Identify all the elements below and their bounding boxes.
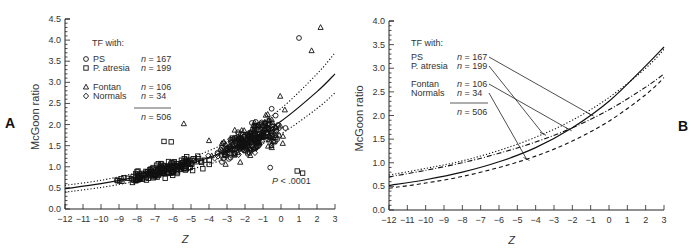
y-tick-label: 3.0 <box>48 77 61 87</box>
x-tick-label: 1 <box>625 215 630 225</box>
legend-label: Normals <box>411 88 445 98</box>
y-axis-title: McGoon ratio <box>29 84 41 150</box>
x-tick-label: −12 <box>381 215 396 225</box>
leader-line <box>489 93 527 159</box>
legend-count: n = 34 <box>141 91 166 101</box>
panel-a-axes: 0.00.51.01.52.02.53.03.54.04.5−12−11−10−… <box>29 14 338 245</box>
x-tick-label: −8 <box>132 214 142 224</box>
y-tick-label: 2.5 <box>372 87 385 97</box>
x-tick-label: −3 <box>222 214 232 224</box>
leader-line <box>489 66 543 134</box>
legend-label: P. atresia <box>411 61 448 71</box>
x-axis-title: Z <box>181 233 190 245</box>
x-tick-label: −1 <box>258 214 268 224</box>
y-tick-label: 4.0 <box>372 16 385 26</box>
x-tick-label: −3 <box>549 215 559 225</box>
y-tick-label: 3.5 <box>48 56 61 66</box>
panel-b-axes: 0.00.51.01.52.02.53.03.54.0−12−11−10−9−8… <box>353 16 667 246</box>
y-tick-label: 0.0 <box>372 205 385 215</box>
x-axis-title: Z <box>507 234 516 246</box>
x-tick-label: −11 <box>400 215 415 225</box>
x-tick-label: −2 <box>567 215 577 225</box>
x-tick-label: 3 <box>661 215 666 225</box>
legend-label: Normals <box>93 91 127 101</box>
x-tick-label: −1 <box>586 215 596 225</box>
x-tick-label: −6 <box>494 215 504 225</box>
x-tick-label: −8 <box>457 215 467 225</box>
legend-label: P. atresia <box>93 63 130 73</box>
x-tick-label: −6 <box>168 214 178 224</box>
y-tick-label: 4.0 <box>48 35 61 45</box>
y-axis-title: McGoon ratio <box>353 85 365 151</box>
figure: 0.00.51.01.52.02.53.03.54.04.5−12−11−10−… <box>0 0 696 251</box>
legend-total: n = 506 <box>141 112 171 122</box>
x-tick-label: −4 <box>204 214 214 224</box>
legend-title: TF with: <box>92 38 124 48</box>
x-tick-label: −10 <box>418 215 433 225</box>
panel-a-label: A <box>5 115 15 131</box>
x-tick-label: −7 <box>150 214 160 224</box>
x-tick-label: −9 <box>439 215 449 225</box>
y-tick-label: 0.0 <box>48 204 61 214</box>
x-tick-label: 2 <box>643 215 648 225</box>
y-tick-label: 1.5 <box>48 141 61 151</box>
legend-count: n = 199 <box>141 63 171 73</box>
x-tick-label: −5 <box>186 214 196 224</box>
legend-count: n = 199 <box>457 61 487 71</box>
legend-count: n = 34 <box>457 88 482 98</box>
legend-a: TF with:PSn = 167P. atresian = 199Fontan… <box>83 38 171 122</box>
y-tick-label: 4.5 <box>48 14 61 24</box>
x-tick-label: −2 <box>240 214 250 224</box>
x-tick-label: 2 <box>314 214 319 224</box>
x-tick-label: −10 <box>93 214 108 224</box>
y-tick-label: 1.0 <box>372 158 385 168</box>
x-tick-label: 0 <box>278 214 283 224</box>
y-tick-label: 2.5 <box>48 98 61 108</box>
x-tick-label: −7 <box>476 215 486 225</box>
y-tick-label: 1.5 <box>372 134 385 144</box>
panel-b-label: B <box>678 118 688 134</box>
x-tick-label: −9 <box>114 214 124 224</box>
x-tick-label: 3 <box>332 214 337 224</box>
y-tick-label: 3.5 <box>372 40 385 50</box>
y-tick-label: 0.5 <box>372 181 385 191</box>
regression-lines <box>65 53 335 192</box>
x-tick-label: 1 <box>296 214 301 224</box>
y-tick-label: 2.0 <box>48 120 61 130</box>
y-tick-label: 3.0 <box>372 63 385 73</box>
y-tick-label: 1.0 <box>48 162 61 172</box>
y-tick-label: 0.5 <box>48 183 61 193</box>
legend-total: n = 506 <box>457 107 487 117</box>
y-tick-label: 2.0 <box>372 111 385 121</box>
legend-b: TF with:PSn = 167P. atresian = 199Fontan… <box>411 38 594 160</box>
x-tick-label: −12 <box>57 214 72 224</box>
x-tick-label: 0 <box>606 215 611 225</box>
x-tick-label: −4 <box>531 215 541 225</box>
legend-title: TF with: <box>411 38 443 48</box>
x-tick-label: −5 <box>512 215 522 225</box>
x-tick-label: −11 <box>76 214 91 224</box>
p-value-annotation: P < .0001 <box>272 176 311 186</box>
leader-line <box>489 84 569 129</box>
